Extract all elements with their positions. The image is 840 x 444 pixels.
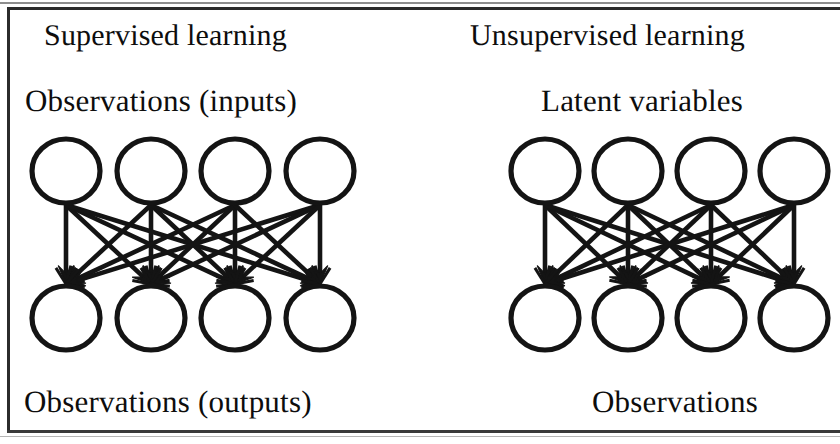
edge-arrowhead-unsupervised-15 [786,266,802,284]
node-bottom-unsupervised-4 [760,286,828,350]
edge-arrowhead-unsupervised-12 [545,271,565,286]
node-top-supervised-1 [32,139,100,203]
top-layer-nodes-unsupervised [511,139,828,203]
page-scan-edge-top [0,2,840,4]
edge-arrowhead-supervised-11 [301,266,320,284]
panel-title-unsupervised: Unsupervised learning [470,21,745,51]
edge-supervised-14 [242,205,320,278]
node-top-unsupervised-2 [594,139,662,203]
edge-arrowhead-unsupervised-10 [703,266,719,284]
edge-supervised-9 [158,205,235,278]
edge-unsupervised-1 [545,205,621,278]
edge-arrowhead-unsupervised-14 [711,266,730,284]
edge-arrowhead-unsupervised-0 [537,266,553,284]
node-bottom-unsupervised-1 [511,286,579,350]
network-diagram-graphics [0,0,840,444]
edge-supervised-13 [159,205,320,280]
edge-supervised-4 [73,205,151,278]
panel-top-layer-label-unsupervised: Latent variables [541,85,743,116]
node-top-unsupervised-4 [760,139,828,203]
edge-unsupervised-7 [628,205,786,280]
panel-bottom-layer-label-unsupervised: Observations [592,386,758,417]
edge-arrowhead-unsupervised-3 [774,271,794,286]
node-bottom-supervised-1 [32,286,100,350]
figure-border-bottom [7,430,840,433]
edge-arrowhead-supervised-15 [312,266,328,284]
edge-arrowhead-unsupervised-2 [691,269,711,284]
page-scan-edge-bottom [0,436,840,437]
edge-supervised-1 [66,205,144,278]
panel-title-supervised: Supervised learning [44,21,287,51]
edge-unsupervised-2 [545,205,703,280]
edge-arrowhead-supervised-13 [151,269,171,284]
edge-arrowhead-supervised-1 [132,266,151,284]
edge-arrowhead-supervised-0 [58,266,74,284]
edge-unsupervised-11 [711,205,787,278]
edge-arrowhead-supervised-10 [227,266,243,284]
edge-arrowhead-supervised-6 [216,266,235,284]
edge-unsupervised-13 [636,205,794,280]
edge-arrowhead-unsupervised-6 [692,266,711,284]
edge-arrowhead-supervised-5 [143,266,159,284]
edge-arrowhead-unsupervised-13 [628,269,648,284]
edge-arrowhead-unsupervised-8 [545,269,565,284]
edge-supervised-6 [151,205,228,278]
node-bottom-supervised-3 [201,286,269,350]
edge-arrowhead-supervised-7 [300,269,320,284]
edge-unsupervised-6 [628,205,704,278]
edge-arrowhead-supervised-4 [66,266,85,284]
edge-unsupervised-12 [554,205,794,281]
edge-unsupervised-3 [545,205,785,281]
node-top-supervised-4 [286,139,354,203]
node-top-unsupervised-3 [677,139,745,203]
node-top-supervised-2 [117,139,185,203]
figure-border-top [7,7,840,10]
panel-bottom-layer-label-supervised: Observations (outputs) [24,386,312,417]
edge-unsupervised-8 [553,205,711,280]
edge-unsupervised-4 [552,205,628,278]
edge-supervised-11 [235,205,313,278]
edge-arrowhead-supervised-8 [66,269,86,284]
panel-top-layer-label-supervised: Observations (inputs) [25,85,297,116]
edge-arrowhead-unsupervised-4 [545,266,564,284]
edge-supervised-12 [75,205,320,281]
edge-arrowhead-supervised-12 [66,271,86,286]
edge-group-supervised [56,205,330,289]
node-bottom-supervised-4 [286,286,354,350]
node-top-unsupervised-1 [511,139,579,203]
figure-canvas: Supervised learning Unsupervised learnin… [0,0,840,444]
bottom-layer-nodes-unsupervised [511,286,828,350]
edge-supervised-2 [66,205,227,280]
node-bottom-unsupervised-2 [594,286,662,350]
figure-border-left [7,7,10,433]
edge-supervised-3 [66,205,311,281]
node-top-supervised-3 [201,139,269,203]
edge-arrowhead-unsupervised-5 [620,266,636,284]
edge-arrowhead-supervised-3 [300,271,320,286]
node-bottom-unsupervised-3 [677,286,745,350]
top-layer-nodes-supervised [32,139,354,203]
node-bottom-supervised-2 [117,286,185,350]
edge-arrowhead-unsupervised-7 [774,269,794,284]
edge-supervised-7 [151,205,312,280]
bottom-layer-nodes-supervised [32,286,354,350]
edge-group-unsupervised [535,205,804,289]
edge-arrowhead-supervised-2 [215,269,235,284]
edge-arrowhead-supervised-9 [151,266,170,284]
edge-arrowhead-unsupervised-9 [628,266,647,284]
edge-supervised-8 [74,205,235,280]
edge-unsupervised-9 [635,205,711,278]
edge-arrowhead-supervised-14 [235,266,254,284]
edge-unsupervised-14 [718,205,794,278]
edge-arrowhead-unsupervised-11 [775,266,794,284]
edge-arrowhead-unsupervised-1 [609,266,628,284]
